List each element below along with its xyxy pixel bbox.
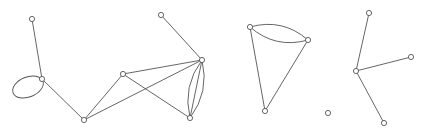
node-a [29,16,34,21]
node-o [381,120,386,125]
edge-b-c [42,79,84,120]
node-e [158,12,163,17]
edge-d-f [123,60,202,74]
edge-m-n [356,57,411,71]
edge-m-o [356,71,384,123]
node-m [353,68,358,73]
node-g [187,115,192,120]
edge-e-f [161,15,202,60]
edge-d-g [123,74,190,118]
edge-h-i [250,24,308,40]
edges-layer [9,13,411,123]
edge-c-f [84,60,202,120]
node-c [81,117,86,122]
node-i [305,37,310,42]
node-n [408,54,413,59]
edge-h-j [250,27,265,111]
node-b [39,76,44,81]
graph-canvas [0,0,426,133]
edge-h-i [250,27,308,43]
node-f [199,57,204,62]
edge-i-j [265,40,308,111]
nodes-layer [29,10,413,125]
node-l [366,10,371,15]
node-j [262,108,267,113]
edge-l-m [356,13,369,71]
edge-a-b [32,19,42,79]
node-d [120,71,125,76]
node-h [247,24,252,29]
edge-c-d [84,74,123,120]
node-k [325,110,330,115]
